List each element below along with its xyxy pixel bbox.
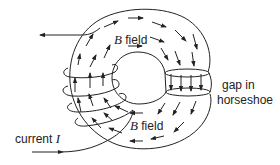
gap-label-line2: horseshoe (217, 93, 273, 107)
gap-lower-face (166, 88, 210, 96)
top-b-field-label: B field (114, 32, 147, 47)
gap-left-edge (165, 73, 166, 92)
horseshoe-magnet-diagram: B field B field gap in horseshoe current… (0, 0, 280, 165)
gap-label-line1: gap in (222, 78, 255, 92)
current-direction-arrowhead (58, 150, 64, 154)
gap-right-edge (209, 73, 211, 92)
current-label: current I (15, 131, 61, 146)
bottom-b-field-label: B field (130, 118, 163, 133)
coil-turn-4 (75, 110, 133, 126)
gap-upper-face (165, 69, 209, 77)
coil-lead-top (40, 28, 100, 35)
core-inner-edge (112, 52, 166, 104)
